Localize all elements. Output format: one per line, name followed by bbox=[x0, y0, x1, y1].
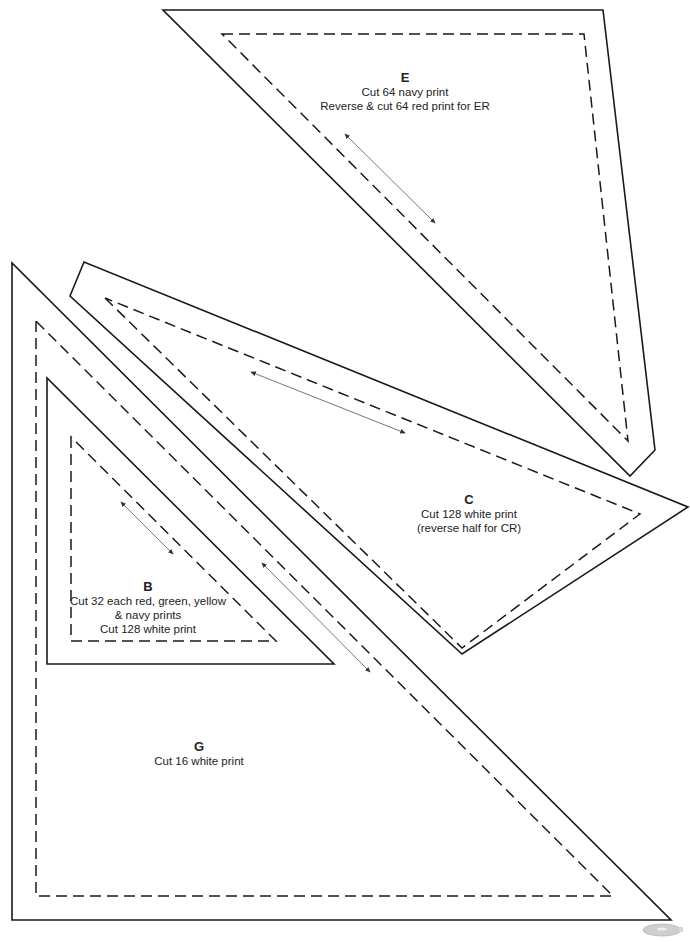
piece-g-letter: G bbox=[154, 739, 244, 754]
piece-b-instruction-1: Cut 32 each red, green, yellow bbox=[70, 594, 226, 608]
piece-c-instruction-1: Cut 128 white print bbox=[417, 507, 521, 521]
piece-e-instruction-2: Reverse & cut 64 red print for ER bbox=[320, 99, 489, 113]
piece-e-grain-arrow bbox=[345, 134, 435, 223]
piece-b-grain-arrow bbox=[121, 502, 173, 554]
tape-spool-icon bbox=[642, 923, 684, 937]
piece-b-letter: B bbox=[70, 579, 226, 594]
piece-e-label: E Cut 64 navy print Reverse & cut 64 red… bbox=[320, 70, 489, 113]
piece-c-instruction-2: (reverse half for CR) bbox=[417, 521, 521, 535]
piece-b-label: B Cut 32 each red, green, yellow & navy … bbox=[70, 579, 226, 636]
piece-e-letter: E bbox=[320, 70, 489, 85]
piece-b-instruction-2: & navy prints bbox=[70, 608, 226, 622]
piece-c-letter: C bbox=[417, 492, 521, 507]
piece-g-label: G Cut 16 white print bbox=[154, 739, 244, 768]
piece-g-grain-arrow bbox=[262, 563, 370, 672]
pattern-sheet bbox=[0, 0, 690, 942]
piece-c-grain-arrow bbox=[251, 372, 405, 433]
piece-g-instruction-1: Cut 16 white print bbox=[154, 754, 244, 768]
piece-c-label: C Cut 128 white print (reverse half for … bbox=[417, 492, 521, 535]
piece-e-instruction-1: Cut 64 navy print bbox=[320, 85, 489, 99]
piece-b-instruction-3: Cut 128 white print bbox=[70, 622, 226, 636]
